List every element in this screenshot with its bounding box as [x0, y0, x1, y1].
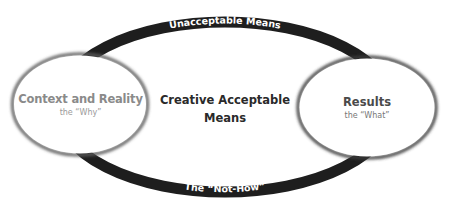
bottom-band-label: The “Not-How” [184, 180, 266, 194]
center-node-line-1: Creative Acceptable [150, 91, 300, 109]
left-node-title: Context and Reality [13, 92, 148, 106]
diagram-canvas: Unacceptable Means The “Not-How” Unaccep… [0, 0, 450, 204]
center-node-line-2: Means [150, 109, 300, 127]
center-node-label: Creative Acceptable Means [150, 91, 300, 127]
left-node-subtitle: the “Why” [13, 108, 148, 117]
right-node-subtitle: the “What” [298, 111, 436, 120]
right-node-title: Results [298, 95, 436, 109]
